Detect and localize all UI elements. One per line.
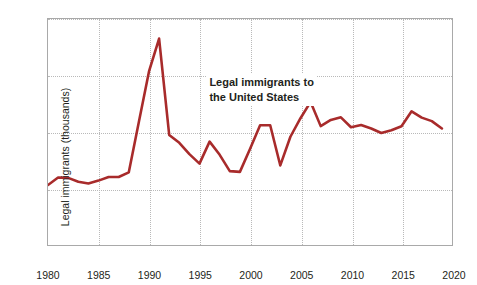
x-tick-label: 2000 (228, 269, 274, 281)
x-tick-label: 1980 (25, 269, 71, 281)
immigration-line-chart: 05001,0001,5002,000 19801985199019952000… (0, 0, 477, 285)
x-tick-label: 2010 (330, 269, 376, 281)
x-tick-label: 1990 (127, 269, 173, 281)
plot-inner (48, 19, 452, 245)
x-tick-label: 2015 (380, 269, 426, 281)
x-tick-label: 2020 (431, 269, 477, 281)
plot-area: 05001,0001,5002,000 19801985199019952000… (47, 18, 453, 246)
y-axis-title: Legal immigrants (thousands) (59, 57, 71, 257)
x-tick-label: 1985 (76, 269, 122, 281)
annotation-line-2: the United States (209, 90, 314, 105)
annotation-line-1: Legal immigrants to (209, 75, 314, 90)
x-tick-label: 2005 (279, 269, 325, 281)
series-annotation: Legal immigrants to the United States (206, 74, 317, 106)
x-tick-label: 1995 (177, 269, 223, 281)
series-line (48, 19, 452, 245)
